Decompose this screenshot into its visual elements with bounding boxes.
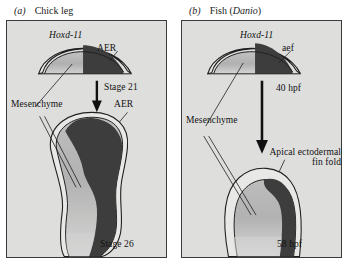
panel-b-title-prefix: Fish ( [210, 5, 233, 16]
label-58-hpf: 58 hpf [277, 240, 302, 250]
label-aer-stage21: AER [97, 44, 116, 54]
fish-58hpf-basal-fade [233, 237, 281, 257]
label-apical-ectodermal-fin-fold: Apical ectodermal fin fold [243, 148, 341, 168]
chick-stage26-bud [50, 112, 127, 256]
panel-b-title-suffix: ) [258, 5, 261, 16]
label-stage-26: Stage 26 [100, 240, 134, 250]
label-aef: aef [282, 44, 294, 54]
label-mesenchyme-fish: Mesenchyme [186, 116, 238, 126]
label-mesenchyme-chick: Mesenchyme [11, 100, 63, 110]
label-fin-fold-line2: fin fold [312, 157, 341, 167]
label-fin-fold-line1: Apical ectodermal [269, 147, 341, 157]
label-40-hpf: 40 hpf [276, 84, 301, 94]
label-hoxd11-fish: Hoxd-11 [240, 31, 273, 41]
panel-b-frame [181, 20, 342, 258]
panel-b-letter: (b) [189, 5, 201, 16]
panel-a-title: Chick leg [35, 5, 74, 16]
panel-b-artwork [182, 21, 341, 257]
chick-stage21-bud [39, 45, 132, 74]
panel-a-letter: (a) [14, 5, 26, 16]
panel-b-title-species: Danio [233, 5, 258, 16]
panel-a-caption: (a)Chick leg [14, 6, 73, 16]
label-aer-stage26: AER [114, 100, 133, 110]
chick-transition-arrow [92, 81, 102, 113]
fish-transition-arrow [256, 81, 268, 154]
panel-a-frame [6, 20, 167, 258]
label-hoxd11-chick: Hoxd-11 [49, 31, 82, 41]
panel-a-artwork [7, 21, 166, 257]
panel-b-caption: (b)Fish (Danio) [189, 6, 261, 16]
figure-container: (a)Chick leg (b)Fish (Danio) [0, 0, 353, 264]
label-stage-21: Stage 21 [104, 83, 138, 93]
